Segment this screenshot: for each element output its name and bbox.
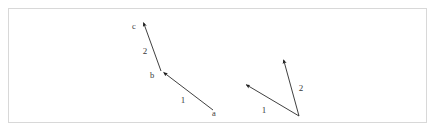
point-label-a: a	[212, 108, 216, 118]
point-label-c: c	[132, 21, 136, 31]
right-vector-2-label: 2	[299, 83, 304, 93]
vector-diagram-canvas: 1 2 a b c 1 2	[0, 0, 437, 131]
right-vector-2-line	[284, 60, 299, 116]
left-vector-1-label: 1	[181, 95, 186, 105]
left-vector-1-line	[164, 72, 213, 110]
right-vector-1-line	[246, 85, 299, 116]
right-vector-1-label: 1	[262, 105, 267, 115]
left-vector-2-label: 2	[143, 46, 148, 56]
figure-container: 1 2 a b c 1 2	[0, 0, 437, 131]
left-vector-group: 1 2 a b c	[132, 21, 216, 118]
point-label-b: b	[150, 70, 154, 80]
right-vector-group: 1 2	[246, 60, 303, 116]
